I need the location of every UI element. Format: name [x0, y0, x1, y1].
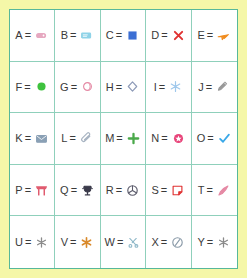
legend-cell-e: E= [192, 10, 237, 62]
legend-cell-t: T= [192, 165, 237, 217]
legend-letter: N [151, 132, 159, 144]
legend-cell-x: X= [146, 216, 191, 268]
asterisk-icon [216, 235, 231, 250]
legend-cell-y: Y= [192, 216, 237, 268]
equals-sign: = [161, 236, 167, 248]
brush-icon [216, 183, 231, 198]
equals-sign: = [70, 236, 76, 248]
equals-sign: = [207, 236, 213, 248]
legend-letter: S [152, 184, 159, 196]
equals-sign: = [116, 81, 122, 93]
trophy-icon [80, 183, 95, 198]
legend-cell-c: C= [101, 10, 146, 62]
equals-sign: = [116, 184, 122, 196]
envelope-icon [34, 131, 49, 146]
legend-cell-a: A= [10, 10, 55, 62]
legend-grid: A=B=C=D=E=F=G=H=I=J=K=L=M=N=O=P=Q=R=S=T=… [9, 9, 238, 269]
legend-letter: J [198, 81, 204, 93]
legend-cell-p: P= [10, 165, 55, 217]
legend-letter: A [15, 29, 22, 41]
legend-letter: U [15, 236, 23, 248]
equals-sign: = [206, 81, 212, 93]
equals-sign: = [24, 81, 30, 93]
snowflake-icon [168, 79, 183, 94]
legend-cell-r: R= [101, 165, 146, 217]
scissors-icon [126, 235, 141, 250]
legend-letter: X [152, 236, 159, 248]
torii-gate-icon [34, 183, 49, 198]
legend-letter: T [198, 184, 205, 196]
check-mark-icon [217, 131, 232, 146]
legend-cell-d: D= [146, 10, 191, 62]
legend-cell-u: U= [10, 216, 55, 268]
equals-sign: = [25, 236, 31, 248]
legend-letter: W [105, 236, 115, 248]
equals-sign: = [69, 132, 75, 144]
legend-letter: Q [60, 184, 69, 196]
filled-circle-icon [34, 79, 49, 94]
legend-letter: B [61, 29, 68, 41]
equals-sign: = [161, 132, 167, 144]
legend-letter: R [106, 184, 114, 196]
star-in-circle-icon [171, 131, 186, 146]
legend-letter: V [61, 236, 68, 248]
asterisk-icon [34, 235, 49, 250]
airplane-icon [216, 28, 231, 43]
plus-cross-icon [126, 131, 141, 146]
legend-letter: D [151, 29, 159, 41]
equals-sign: = [25, 184, 31, 196]
legend-cell-l: L= [55, 113, 100, 165]
legend-letter: M [105, 132, 114, 144]
legend-cell-n: N= [146, 113, 191, 165]
equals-sign: = [207, 29, 213, 41]
legend-cell-k: K= [10, 113, 55, 165]
legend-letter: H [106, 81, 114, 93]
legend-letter: L [61, 132, 67, 144]
equals-sign: = [117, 236, 123, 248]
legend-cell-o: O= [192, 113, 237, 165]
legend-letter: F [16, 81, 23, 93]
note-card-icon [79, 28, 94, 43]
legend-letter: P [15, 184, 22, 196]
circled-slash-icon [170, 235, 185, 250]
equals-sign: = [206, 184, 212, 196]
legend-page: A=B=C=D=E=F=G=H=I=J=K=L=M=N=O=P=Q=R=S=T=… [0, 0, 247, 278]
legend-cell-b: B= [55, 10, 100, 62]
legend-cell-v: V= [55, 216, 100, 268]
equals-sign: = [25, 29, 31, 41]
equals-sign: = [159, 81, 165, 93]
legend-cell-s: S= [146, 165, 191, 217]
legend-letter: C [106, 29, 114, 41]
legend-cell-q: Q= [55, 165, 100, 217]
legend-letter: I [154, 81, 157, 93]
filled-square-icon [125, 28, 140, 43]
circled-fan-icon [125, 183, 140, 198]
legend-cell-i: I= [146, 62, 191, 114]
pencil-icon [215, 79, 230, 94]
equals-sign: = [161, 29, 167, 41]
equals-sign: = [70, 29, 76, 41]
legend-cell-g: G= [55, 62, 100, 114]
equals-sign: = [25, 132, 31, 144]
legend-letter: K [15, 132, 22, 144]
star-burst-icon [79, 235, 94, 250]
cross-mark-icon [171, 28, 186, 43]
legend-letter: O [197, 132, 206, 144]
equals-sign: = [116, 29, 122, 41]
legend-cell-h: H= [101, 62, 146, 114]
legend-cell-w: W= [101, 216, 146, 268]
equals-sign: = [71, 184, 77, 196]
equals-sign: = [116, 132, 122, 144]
equals-sign: = [207, 132, 213, 144]
diamond-outline-icon [125, 79, 140, 94]
legend-letter: G [60, 81, 69, 93]
crescent-moon-icon [80, 79, 95, 94]
legend-cell-j: J= [192, 62, 237, 114]
legend-cell-f: F= [10, 62, 55, 114]
sticky-note-icon [170, 183, 185, 198]
equals-sign: = [71, 81, 77, 93]
legend-cell-m: M= [101, 113, 146, 165]
equals-sign: = [161, 184, 167, 196]
paperclip-icon [79, 131, 94, 146]
capsule-pill-icon [34, 28, 49, 43]
